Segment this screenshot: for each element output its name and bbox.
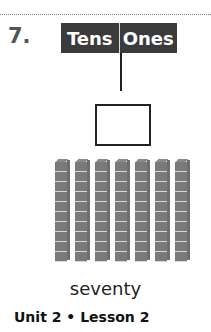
unit-cube <box>95 182 107 192</box>
tens-rods-model <box>55 162 187 262</box>
unit-cube <box>175 212 187 222</box>
unit-cube <box>175 192 187 202</box>
tens-rod <box>175 162 187 262</box>
unit-cube <box>55 222 67 232</box>
unit-cube <box>55 182 67 192</box>
unit-cube <box>175 252 187 262</box>
unit-cube <box>95 172 107 182</box>
unit-cube <box>135 222 147 232</box>
unit-cube <box>115 172 127 182</box>
unit-cube <box>95 202 107 212</box>
column-divider-line <box>120 53 122 91</box>
unit-cube <box>135 242 147 252</box>
unit-lesson-footer: Unit 2 • Lesson 2 <box>14 309 149 325</box>
unit-cube <box>175 172 187 182</box>
unit-cube <box>155 242 167 252</box>
unit-cube <box>75 252 87 262</box>
answer-box[interactable] <box>95 104 151 146</box>
unit-cube <box>55 202 67 212</box>
unit-cube <box>155 232 167 242</box>
unit-cube <box>95 192 107 202</box>
unit-cube <box>155 172 167 182</box>
unit-cube <box>175 182 187 192</box>
unit-cube <box>115 192 127 202</box>
unit-cube <box>55 252 67 262</box>
unit-cube <box>135 252 147 262</box>
unit-cube <box>135 202 147 212</box>
unit-cube <box>55 162 67 172</box>
unit-cube <box>55 192 67 202</box>
unit-cube <box>75 182 87 192</box>
unit-cube <box>115 202 127 212</box>
tens-rod <box>95 162 107 262</box>
unit-cube <box>95 232 107 242</box>
unit-cube <box>135 212 147 222</box>
tens-rod <box>55 162 67 262</box>
unit-cube <box>75 242 87 252</box>
tens-rod <box>155 162 167 262</box>
unit-cube <box>155 202 167 212</box>
unit-cube <box>135 232 147 242</box>
unit-cube <box>155 182 167 192</box>
unit-cube <box>115 242 127 252</box>
unit-cube <box>95 212 107 222</box>
unit-cube <box>135 182 147 192</box>
unit-cube <box>75 222 87 232</box>
dotted-separator <box>0 14 211 15</box>
unit-cube <box>135 192 147 202</box>
unit-cube <box>55 242 67 252</box>
unit-cube <box>75 172 87 182</box>
unit-cube <box>75 192 87 202</box>
unit-cube <box>175 232 187 242</box>
unit-cube <box>115 252 127 262</box>
problem-number: 7. <box>8 24 31 48</box>
unit-cube <box>115 222 127 232</box>
unit-cube <box>175 242 187 252</box>
unit-cube <box>75 162 87 172</box>
unit-cube <box>135 172 147 182</box>
unit-cube <box>95 222 107 232</box>
ones-label: Ones <box>120 23 178 53</box>
tens-rod <box>115 162 127 262</box>
unit-cube <box>115 162 127 172</box>
unit-cube <box>155 222 167 232</box>
unit-cube <box>95 162 107 172</box>
unit-cube <box>115 182 127 192</box>
unit-cube <box>95 242 107 252</box>
tens-rod <box>135 162 147 262</box>
unit-cube <box>175 162 187 172</box>
unit-cube <box>155 212 167 222</box>
place-value-header: Tens Ones <box>61 23 177 53</box>
unit-cube <box>115 212 127 222</box>
unit-cube <box>175 222 187 232</box>
unit-cube <box>75 202 87 212</box>
unit-cube <box>55 232 67 242</box>
unit-cube <box>155 252 167 262</box>
unit-cube <box>115 232 127 242</box>
number-word: seventy <box>0 278 211 299</box>
unit-cube <box>175 202 187 212</box>
tens-rod <box>75 162 87 262</box>
tens-label: Tens <box>61 23 120 53</box>
unit-cube <box>75 232 87 242</box>
unit-cube <box>155 162 167 172</box>
unit-cube <box>75 212 87 222</box>
unit-cube <box>135 162 147 172</box>
unit-cube <box>55 172 67 182</box>
unit-cube <box>55 212 67 222</box>
unit-cube <box>95 252 107 262</box>
unit-cube <box>155 192 167 202</box>
